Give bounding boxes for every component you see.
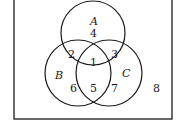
region-a-and-c: 3 (111, 48, 118, 61)
set-label-c: C (122, 67, 131, 80)
circle-c (76, 40, 142, 106)
venn-diagram: A 4 2 3 1 B 6 5 C 7 8 (0, 0, 183, 127)
region-a-only: 4 (90, 27, 97, 40)
region-outside: 8 (153, 82, 160, 95)
set-label-b: B (54, 69, 63, 82)
region-c-only: 7 (111, 82, 118, 95)
region-b-and-c: 5 (90, 82, 97, 95)
region-a-and-b: 2 (68, 48, 75, 61)
region-a-b-c: 1 (90, 56, 97, 69)
region-b-only: 6 (70, 82, 77, 95)
